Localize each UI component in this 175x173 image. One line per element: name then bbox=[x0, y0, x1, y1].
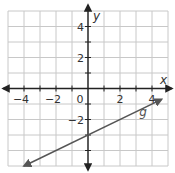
x-tick-label: −2 bbox=[45, 93, 61, 106]
y-axis-label: y bbox=[92, 9, 101, 23]
x-tick-label: 2 bbox=[117, 93, 124, 106]
x-tick-label: −4 bbox=[13, 93, 29, 106]
series-lines: g bbox=[24, 99, 162, 166]
y-tick-label: 2 bbox=[77, 52, 84, 65]
y-tick-label: 4 bbox=[77, 21, 84, 34]
x-axis-label: x bbox=[159, 73, 168, 87]
y-tick-label: −2 bbox=[68, 114, 84, 127]
line-label-g: g bbox=[139, 105, 147, 119]
coordinate-plane: −4−224−224 g x y 0 bbox=[0, 0, 175, 173]
origin-label: 0 bbox=[77, 93, 84, 106]
axes bbox=[3, 5, 172, 170]
